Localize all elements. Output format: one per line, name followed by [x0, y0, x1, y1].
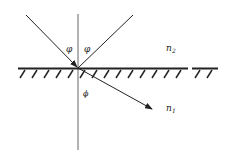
incident-ray: [26, 15, 77, 67]
medium-upper-label: n 2: [166, 43, 176, 54]
svg-text:2: 2: [171, 47, 176, 54]
reflected-ray: [78, 15, 133, 68]
incident-angle-label: φ: [66, 44, 73, 54]
refraction-diagram: φ φ ϕ n 2 n 1: [0, 0, 227, 155]
refracted-angle-label: ϕ: [83, 89, 89, 98]
svg-text:1: 1: [172, 107, 176, 114]
refracted-ray: [78, 68, 152, 109]
interface-surface: [18, 69, 218, 79]
hatch-marks: [20, 70, 212, 78]
medium-lower-label: n 1: [166, 103, 176, 114]
reflected-angle-label: φ: [84, 44, 91, 54]
